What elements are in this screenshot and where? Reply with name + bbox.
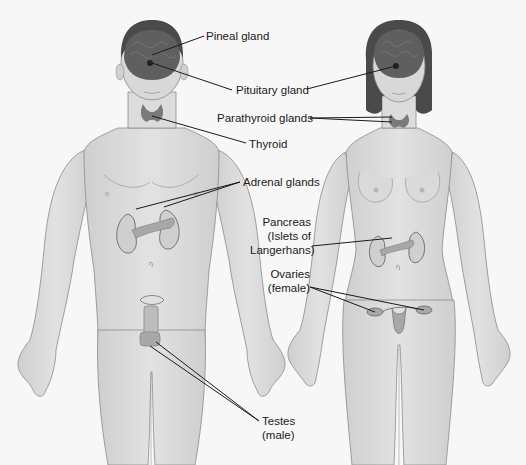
label-pancreas-line1: Pancreas [250, 215, 311, 229]
label-pancreas: Pancreas (Islets of Langerhans) [250, 215, 311, 257]
label-ovaries-line1: Ovaries [258, 267, 310, 281]
label-parathyroid-glands: Parathyroid glands [217, 111, 313, 125]
parathyroid-callout-a [310, 117, 392, 118]
label-pituitary-gland: Pituitary gland [236, 83, 309, 97]
label-testes-line2: (male) [262, 428, 295, 442]
label-ovaries-line2: (female) [258, 281, 310, 295]
label-pancreas-line3: Langerhans) [250, 243, 311, 257]
endocrine-diagram: Pineal gland Pituitary gland Parathyroid… [0, 0, 526, 465]
female-figure [288, 20, 510, 465]
label-ovaries: Ovaries (female) [258, 267, 310, 295]
label-testes-line1: Testes [262, 414, 295, 428]
label-testes: Testes (male) [262, 414, 295, 442]
label-adrenal-glands: Adrenal glands [243, 175, 320, 189]
label-thyroid: Thyroid [249, 137, 287, 151]
female-brain [374, 30, 424, 78]
male-testes [140, 332, 160, 346]
label-pancreas-line2: (Islets of [250, 229, 311, 243]
parathyroid-callout-b [310, 118, 392, 122]
label-pineal-gland: Pineal gland [206, 29, 269, 43]
